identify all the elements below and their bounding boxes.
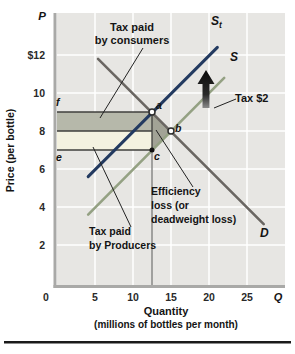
y-tick-label: $12 xyxy=(15,48,45,62)
point-c-label: c xyxy=(154,150,160,162)
point-f-label: f xyxy=(56,96,60,108)
q-axis-symbol: Q xyxy=(270,291,286,303)
st-label-main: S xyxy=(211,14,219,28)
tax-paid-by-consumers-line1: Tax paid xyxy=(94,21,170,34)
efficiency-loss-label: Efficiency loss (or deadweight loss) xyxy=(151,184,255,226)
x-tick-label: 20 xyxy=(199,291,219,304)
supply-curve-label: S xyxy=(230,50,238,64)
x-axis-bar xyxy=(54,285,286,288)
x-tick-label: 5 xyxy=(85,291,105,304)
x-tick-label: 0 xyxy=(36,291,56,304)
tax-paid-by-producers-line1: Tax paid xyxy=(89,225,179,239)
p-axis-symbol: P xyxy=(30,10,46,22)
st-label-sub: t xyxy=(219,20,222,30)
tax-paid-by-producers-label: Tax paid by Producers xyxy=(89,225,179,252)
x-axis-subtitle: (millions of bottles per month) xyxy=(61,319,271,330)
demand-curve-label: D xyxy=(260,226,269,240)
point-a-label: a xyxy=(156,99,162,111)
x-tick-label: 25 xyxy=(237,291,257,304)
point-b-dot xyxy=(168,128,174,134)
efficiency-loss-line3: deadweight loss) xyxy=(151,212,255,226)
point-a-dot xyxy=(149,109,155,115)
tax-paid-by-producers-region xyxy=(57,131,152,150)
y-tick-label: 8 xyxy=(15,124,45,138)
x-tick-label: 15 xyxy=(161,291,181,304)
y-tick-label: 10 xyxy=(15,86,45,100)
point-b-label: b xyxy=(175,122,181,134)
tax-paid-by-consumers-label: Tax paid by consumers xyxy=(94,21,170,47)
bottom-divider xyxy=(4,341,291,344)
supply-plus-tax-curve-label: St xyxy=(211,14,222,30)
tax-paid-by-producers-line2: by Producers xyxy=(89,239,179,253)
efficiency-loss-line1: Efficiency xyxy=(151,184,255,198)
tax-paid-by-consumers-line2: by consumers xyxy=(94,34,170,47)
x-tick-label: 10 xyxy=(123,291,143,304)
tax-amount-label: Tax $2 xyxy=(235,92,268,104)
tax-incidence-figure: P Q Price (per bottle) Quantity (million… xyxy=(0,0,295,354)
efficiency-loss-line2: loss (or xyxy=(151,198,255,212)
point-e-label: e xyxy=(56,151,62,163)
y-tick-label: 6 xyxy=(15,162,45,176)
x-axis-title: Quantity xyxy=(96,305,236,317)
y-tick-label: 2 xyxy=(15,238,45,252)
y-tick-label: 4 xyxy=(15,200,45,214)
